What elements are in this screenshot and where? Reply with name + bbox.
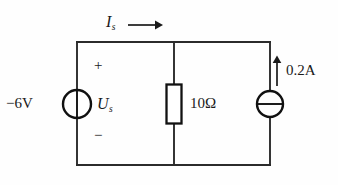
current-source-value-label: 0.2A bbox=[286, 63, 316, 78]
us-subscript: s bbox=[109, 104, 113, 114]
resistor-value-label: 10Ω bbox=[190, 96, 216, 111]
voltage-source-symbol[interactable] bbox=[63, 90, 91, 118]
is-base: I bbox=[106, 13, 111, 30]
voltage-source-symbol-label: Us bbox=[97, 96, 112, 112]
branch-current-label: Is bbox=[106, 14, 115, 30]
circuit-schematic-canvas bbox=[0, 0, 338, 185]
polarity-minus-label: − bbox=[94, 128, 102, 143]
resistor-box bbox=[167, 85, 182, 124]
polarity-plus-label: + bbox=[94, 58, 102, 73]
is-subscript: s bbox=[112, 22, 116, 32]
current-source-symbol[interactable] bbox=[257, 91, 283, 117]
us-base: U bbox=[97, 95, 109, 112]
current-direction-arrow-icon bbox=[273, 56, 282, 87]
branch-current-arrow-icon bbox=[128, 21, 163, 30]
circuit-diagram: −6V Us + − 10Ω 0.2A Is bbox=[0, 0, 338, 185]
current-direction-arrow-head bbox=[273, 56, 282, 64]
branch-current-arrow-head bbox=[155, 21, 163, 30]
resistor-symbol[interactable] bbox=[167, 85, 182, 124]
voltage-source-value-label: −6V bbox=[6, 96, 33, 111]
